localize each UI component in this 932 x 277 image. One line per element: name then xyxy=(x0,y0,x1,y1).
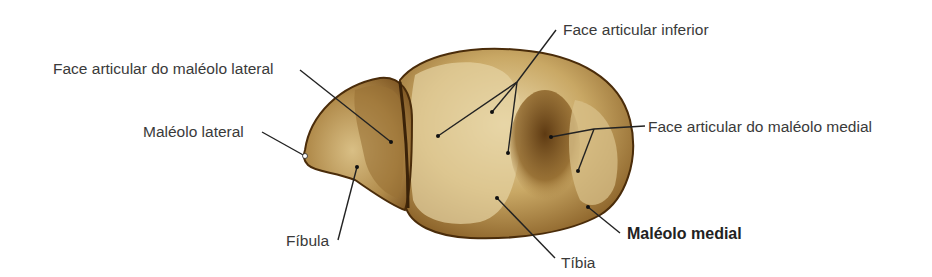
bone-illustration xyxy=(0,0,932,277)
label-maleolo-lateral: Maléolo lateral xyxy=(143,124,244,140)
label-fibula: Fíbula xyxy=(286,233,329,249)
anatomy-diagram: Face articular do maléolo lateral Maléol… xyxy=(0,0,932,277)
label-tibia: Tíbia xyxy=(561,255,595,271)
label-face-articular-maleolo-medial: Face articular do maléolo medial xyxy=(648,119,872,135)
label-face-articular-maleolo-lateral: Face articular do maléolo lateral xyxy=(53,61,274,77)
label-face-articular-inferior: Face articular inferior xyxy=(563,22,709,38)
label-maleolo-medial: Maléolo medial xyxy=(627,226,742,242)
